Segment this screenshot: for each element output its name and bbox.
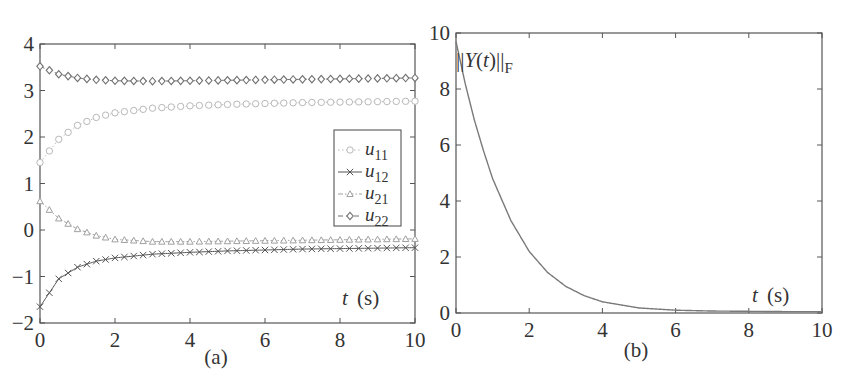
chart-panel-a: 0246810−2−101234 u11u12u21u22 t (s) (a)	[12, 32, 426, 369]
y-tick-label: 4	[24, 32, 35, 56]
series-line-norm	[456, 41, 822, 311]
diamond-marker	[121, 77, 127, 84]
circle-marker	[46, 148, 52, 154]
diamond-marker	[196, 77, 202, 84]
diamond-marker	[177, 77, 183, 84]
diamond-marker	[365, 75, 371, 82]
diamond-marker	[262, 76, 268, 83]
diamond-marker	[74, 74, 80, 81]
circle-marker	[112, 110, 118, 116]
x-tick-label: 0	[451, 318, 462, 342]
circle-marker	[177, 103, 183, 109]
y-tick-label: 2	[440, 245, 451, 269]
circle-marker	[168, 104, 174, 110]
circle-marker	[159, 104, 165, 110]
diamond-marker	[318, 75, 324, 82]
x-tick-label: 0	[35, 328, 46, 352]
caption-b: (b)	[624, 338, 649, 362]
diamond-marker	[271, 76, 277, 83]
circle-marker	[93, 114, 99, 120]
circle-marker	[318, 99, 324, 105]
diamond-marker	[84, 75, 90, 82]
diamond-marker	[112, 77, 118, 84]
x-axis-label-a: t (s)	[342, 286, 379, 310]
x-tick-label: 2	[524, 318, 535, 342]
circle-marker	[187, 103, 193, 109]
series-group-b	[456, 41, 822, 311]
x-tick-label: 8	[335, 328, 346, 352]
diamond-marker	[224, 77, 230, 84]
diamond-marker	[37, 63, 43, 70]
y-tick-label: 10	[429, 21, 450, 45]
diamond-marker	[309, 76, 315, 83]
triangle-marker	[412, 236, 418, 242]
x-tick-label: 8	[744, 318, 755, 342]
diamond-marker	[46, 67, 52, 74]
circle-marker	[84, 118, 90, 124]
y-tick-label: 0	[440, 301, 451, 325]
diamond-marker	[243, 76, 249, 83]
diamond-marker	[168, 77, 174, 84]
x-tick-label: 10	[405, 328, 426, 352]
x-marker	[84, 261, 90, 267]
caption-a: (a)	[204, 345, 227, 369]
triangle-marker	[149, 238, 155, 244]
y-tick-label: 8	[440, 77, 451, 101]
y-tick-label: 3	[24, 79, 35, 103]
circle-marker	[384, 98, 390, 104]
diamond-marker	[412, 74, 418, 81]
circle-marker	[337, 99, 343, 105]
diamond-marker	[299, 76, 305, 83]
x-marker	[65, 270, 71, 276]
x-marker	[74, 264, 80, 270]
norm-annotation: ||Y(t)||F	[456, 48, 513, 76]
circle-marker	[37, 159, 43, 165]
circle-marker	[402, 98, 408, 104]
series-markers-u22	[37, 63, 418, 85]
circle-marker	[299, 99, 305, 105]
circle-marker	[290, 100, 296, 106]
y-tick-label: 4	[440, 189, 451, 213]
diamond-marker	[215, 77, 221, 84]
y-tick-label: −1	[12, 265, 34, 289]
circle-marker	[121, 108, 127, 114]
diamond-marker	[65, 72, 71, 79]
diamond-marker	[337, 75, 343, 82]
triangle-marker	[37, 198, 43, 204]
x-tick-label: 6	[670, 318, 681, 342]
diamond-marker	[102, 77, 108, 84]
circle-marker	[131, 107, 137, 113]
y-tick-label: 1	[24, 172, 35, 196]
circle-marker	[224, 101, 230, 107]
diamond-marker	[93, 76, 99, 83]
diamond-marker	[384, 75, 390, 82]
diamond-marker	[281, 76, 287, 83]
triangle-marker	[243, 238, 249, 244]
legend-a: u11u12u21u22	[334, 130, 401, 229]
circle-marker	[65, 129, 71, 135]
triangle-marker	[46, 207, 52, 213]
circle-marker	[102, 112, 108, 118]
diamond-marker	[327, 75, 333, 82]
circle-marker	[243, 101, 249, 107]
circle-marker	[262, 100, 268, 106]
diamond-marker	[234, 76, 240, 83]
diamond-marker	[356, 75, 362, 82]
circle-marker	[140, 106, 146, 112]
diamond-marker	[206, 77, 212, 84]
diamond-marker	[402, 74, 408, 81]
circle-marker	[309, 99, 315, 105]
diamond-marker	[374, 75, 380, 82]
y-tick-label: −2	[12, 311, 34, 335]
x-marker	[56, 276, 62, 282]
circle-marker	[56, 136, 62, 142]
diamond-marker	[346, 75, 352, 82]
triangle-marker	[74, 226, 80, 232]
x-tick-label: 4	[597, 318, 608, 342]
x-tick-label: 6	[260, 328, 271, 352]
triangle-marker	[65, 221, 71, 227]
circle-marker	[206, 102, 212, 108]
diamond-marker	[290, 76, 296, 83]
circle-marker	[281, 100, 287, 106]
triangle-marker	[327, 237, 333, 243]
